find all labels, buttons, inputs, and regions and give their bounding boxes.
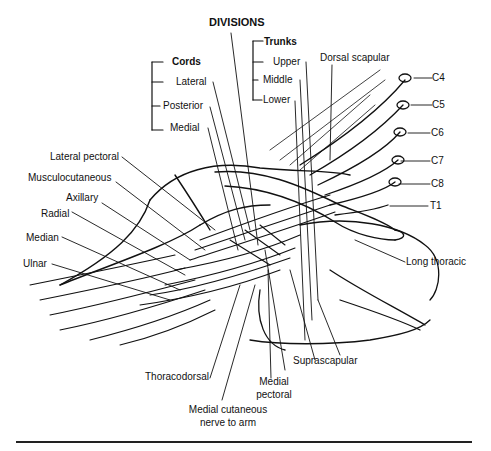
- brachial-plexus-figure: DIVISIONS Trunks Cords Upper Middle Lowe…: [0, 0, 491, 451]
- root-c5-label: C5: [432, 99, 445, 110]
- medial-pectoral-line2: pectoral: [252, 389, 296, 400]
- cord-posterior-label: Posterior: [163, 100, 203, 111]
- musculocutaneous-label: Musculocutaneous: [28, 172, 111, 183]
- medial-cutaneous-line1: Medial cutaneous: [183, 404, 273, 415]
- median-label: Median: [26, 232, 59, 243]
- axillary-label: Axillary: [66, 192, 98, 203]
- root-c4-label: C4: [432, 72, 445, 83]
- trunks-bracket: [253, 41, 263, 100]
- divisions-header: DIVISIONS: [209, 17, 265, 28]
- trunk-lower-label: Lower: [263, 94, 290, 105]
- scalene-muscles: [270, 70, 385, 170]
- divider-rule: [16, 441, 472, 443]
- medial-pectoral-line1: Medial: [252, 376, 296, 387]
- medial-pectoral-label: Medial pectoral: [252, 376, 296, 400]
- root-c6-label: C6: [431, 127, 444, 138]
- trunk-middle-label: Middle: [263, 74, 292, 85]
- trunks-header: Trunks: [264, 36, 297, 47]
- cords-header: Cords: [172, 56, 201, 67]
- thoracodorsal-label: Thoracodorsal: [145, 371, 209, 382]
- medial-cutaneous-line2: nerve to arm: [183, 417, 273, 428]
- root-t1-label: T1: [430, 200, 442, 211]
- cords-bracket: [152, 62, 163, 130]
- clavicle: [215, 171, 404, 240]
- shoulder-outline: [60, 165, 350, 285]
- lateral-pectoral-label: Lateral pectoral: [50, 151, 119, 162]
- long-thoracic-label: Long thoracic: [406, 256, 466, 267]
- trunk-upper-label: Upper: [273, 56, 300, 67]
- suprascapular-label: Suprascapular: [293, 355, 357, 366]
- cord-medial-label: Medial: [170, 122, 199, 133]
- dorsal-scapular-label: Dorsal scapular: [320, 52, 389, 63]
- medial-cutaneous-label: Medial cutaneous nerve to arm: [183, 404, 273, 428]
- root-c8-label: C8: [431, 178, 444, 189]
- root-c7-label: C7: [431, 155, 444, 166]
- anatomy-drawing: [0, 0, 491, 451]
- cord-lateral-label: Lateral: [176, 76, 207, 87]
- radial-label: Radial: [41, 208, 69, 219]
- ulnar-label: Ulnar: [23, 258, 47, 269]
- arm-nerve-bundle: [30, 255, 215, 345]
